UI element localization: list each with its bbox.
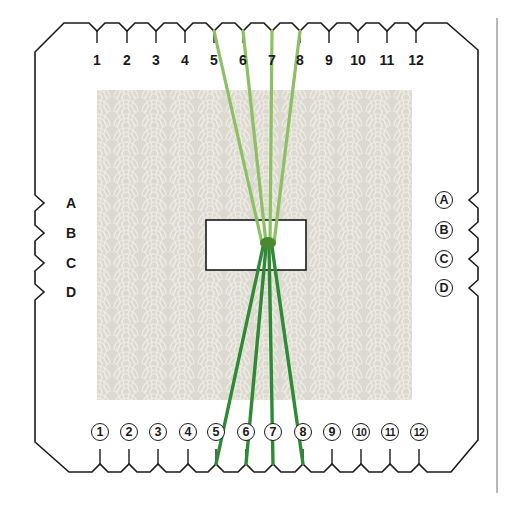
top-slot-label-6: 6 [239, 53, 247, 67]
center-hole [206, 220, 306, 270]
bottom-slot-label-3: 3 [149, 423, 167, 441]
top-slot-label-8: 8 [296, 53, 304, 67]
top-slot-label-3: 3 [152, 53, 160, 67]
bottom-slot-label-9: 9 [323, 423, 341, 441]
strand-knot [260, 237, 276, 249]
bottom-slot-label-12: 12 [410, 423, 428, 441]
right-slot-label-D: D [435, 279, 453, 297]
bottom-slot-label-5: 5 [207, 423, 225, 441]
top-slot-label-7: 7 [268, 53, 276, 67]
bottom-slot-label-2: 2 [120, 423, 138, 441]
bottom-slot-label-6: 6 [237, 423, 255, 441]
top-slot-label-5: 5 [210, 53, 218, 67]
bottom-slot-label-8: 8 [294, 423, 312, 441]
right-slot-label-A: A [435, 191, 453, 209]
left-slot-label-B: B [66, 226, 76, 240]
left-slot-label-D: D [66, 285, 76, 299]
left-slot-label-A: A [66, 196, 76, 210]
bottom-slot-label-11: 11 [381, 423, 399, 441]
bottom-slot-label-7: 7 [264, 423, 282, 441]
right-slot-label-B: B [435, 221, 453, 239]
top-slot-label-2: 2 [123, 53, 131, 67]
top-slot-label-12: 12 [408, 53, 424, 67]
bottom-slot-label-1: 1 [91, 423, 109, 441]
top-slot-label-10: 10 [350, 53, 366, 67]
bottom-slot-label-4: 4 [179, 423, 197, 441]
top-slot-label-11: 11 [380, 53, 395, 67]
page-divider [496, 18, 498, 493]
kumihimo-disk-diagram: 123456789101112123456789101112ABCDABCD [0, 0, 510, 508]
left-slot-label-C: C [66, 256, 76, 270]
top-slot-label-9: 9 [325, 53, 333, 67]
disk-board [0, 0, 510, 508]
top-slot-label-4: 4 [181, 53, 189, 67]
right-slot-label-C: C [435, 250, 453, 268]
top-slot-label-1: 1 [93, 53, 101, 67]
bottom-slot-label-10: 10 [352, 423, 370, 441]
